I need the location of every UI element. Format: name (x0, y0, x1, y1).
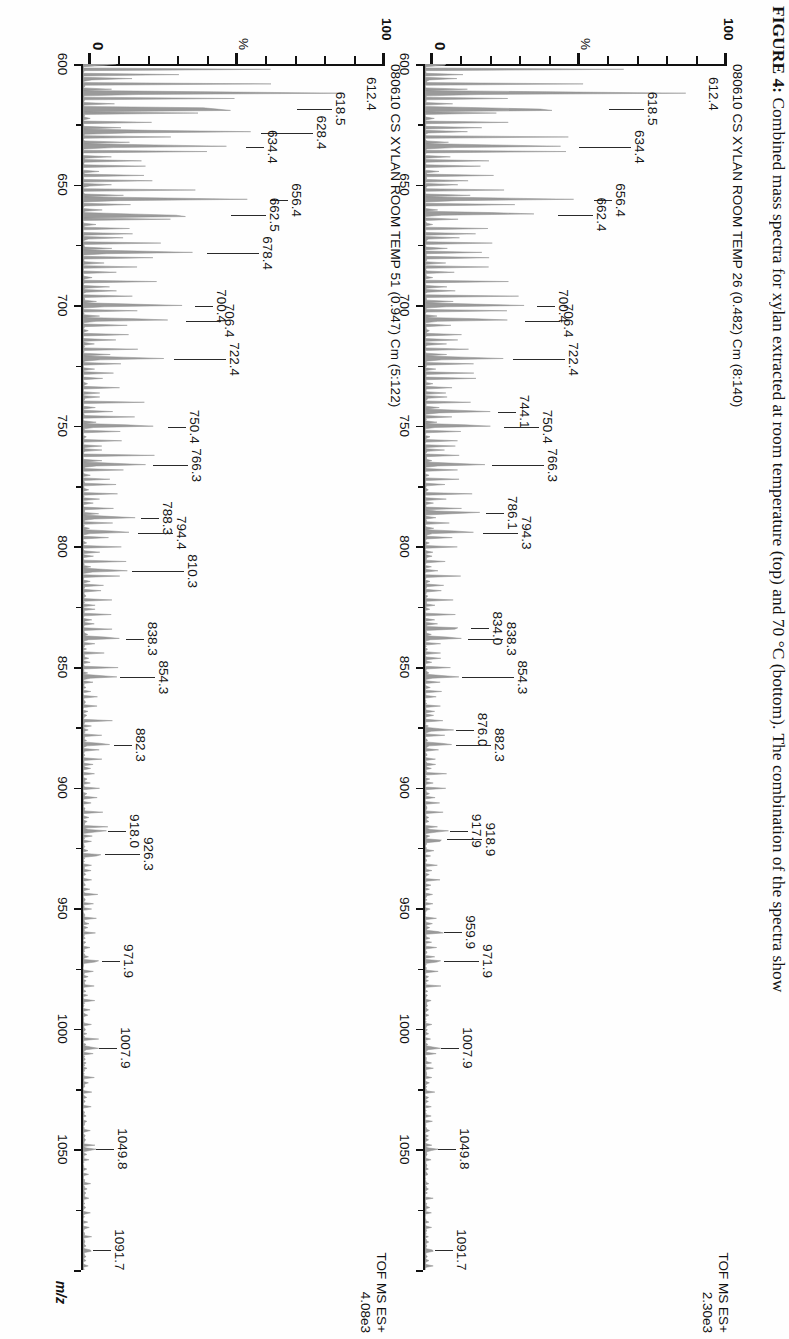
peak-label: 838.3 (145, 622, 160, 656)
peak-leader-line (174, 359, 226, 360)
spectrum-trace-top (425, 64, 723, 1270)
peak-label: 612.4 (706, 77, 721, 111)
peak-label: 618.5 (645, 92, 660, 126)
peak-leader-line (114, 745, 132, 746)
y-axis-max-label-top: 100 (721, 18, 736, 41)
peak-leader-line (444, 932, 462, 933)
peak-label: 722.4 (227, 342, 242, 376)
peak-label: 656.4 (289, 183, 304, 217)
peak-leader-line (93, 1250, 111, 1251)
x-axis-minor-tick (76, 848, 81, 850)
peak-label: 1049.8 (457, 1128, 472, 1169)
peak-leader-line (558, 215, 593, 216)
y-axis-tick (265, 56, 267, 64)
spectrum-trace-bottom (83, 64, 381, 1270)
peak-label: 706.4 (222, 304, 237, 338)
peak-label: 876.0 (475, 713, 490, 747)
peak-label: 678.4 (260, 236, 275, 270)
x-axis-minor-tick (418, 1210, 423, 1212)
y-axis-tick (637, 56, 639, 64)
peak-leader-line (483, 533, 518, 534)
x-axis-minor-tick (76, 245, 81, 247)
peak-leader-line (498, 412, 516, 413)
peak-label: 656.4 (613, 183, 628, 217)
x-axis-major-tick (74, 908, 81, 910)
x-axis-major-tick (416, 1149, 423, 1151)
peak-leader-line (132, 571, 184, 572)
x-axis-major-tick (416, 305, 423, 307)
peak-label: 917.9 (469, 814, 484, 848)
x-axis-minor-tick (76, 1210, 81, 1212)
figure-caption: FIGURE 4: Combined mass spectra for xyla… (769, 6, 789, 1331)
peak-leader-line (441, 1048, 459, 1049)
peak-leader-line (141, 518, 159, 519)
x-axis-major-tick (416, 788, 423, 790)
x-axis-major-tick (416, 1270, 423, 1272)
x-axis-major-tick (74, 305, 81, 307)
peak-label: 750.4 (187, 410, 202, 444)
y-axis-tick (236, 53, 239, 64)
peak-leader-line (231, 215, 266, 216)
peak-label: 1007.9 (460, 1027, 475, 1068)
peak-leader-line (471, 628, 489, 629)
peak-label: 618.5 (333, 92, 348, 126)
figure-caption-text: Combined mass spectra for xylan extracte… (769, 93, 789, 992)
peak-leader-line (108, 831, 126, 832)
x-axis-tick-label: 650 (55, 173, 70, 196)
x-axis-minor-tick (418, 727, 423, 729)
peak-label: 794.3 (519, 516, 534, 550)
peak-label: 788.3 (160, 501, 175, 535)
peak-label: 750.4 (540, 410, 555, 444)
peak-label: 612.4 (364, 77, 379, 111)
peak-label: 854.3 (156, 660, 171, 694)
peak-label: 1049.8 (115, 1128, 130, 1169)
x-axis-title: m/z (53, 1281, 69, 1304)
peak-label: 766.3 (189, 448, 204, 482)
peak-label: 918.9 (483, 823, 498, 857)
peak-leader-line (195, 306, 213, 307)
spectrum-title-bottom: 080610 CS XYLAN ROOM TEMP 51 (0.947) Cm … (388, 64, 403, 407)
y-axis-tick (607, 56, 609, 64)
peak-label: 662.5 (267, 198, 282, 232)
x-axis-minor-tick (418, 366, 423, 368)
peak-label: 1091.7 (112, 1229, 127, 1270)
peak-label: 634.4 (265, 130, 280, 164)
spectrum-panel-bottom: 080610 CS XYLAN ROOM TEMP 51 (0.947) Cm … (63, 0, 403, 1339)
peak-leader-line (525, 321, 560, 322)
peak-leader-line (246, 147, 264, 148)
x-axis-major-tick (74, 1149, 81, 1151)
y-axis-title-bottom: % (236, 38, 251, 50)
x-axis-major-tick (74, 546, 81, 548)
y-axis-tick (578, 53, 581, 64)
y-axis-tick (490, 56, 492, 64)
x-axis-tick-label: 1000 (55, 1014, 70, 1044)
y-axis-tick (118, 56, 120, 64)
peak-label: 744.1 (517, 395, 532, 429)
x-axis-minor-tick (418, 124, 423, 126)
peak-leader-line (186, 321, 221, 322)
x-axis-major-tick (416, 546, 423, 548)
figure-caption-label: FIGURE 4: (769, 6, 789, 93)
x-axis-major-tick (74, 1029, 81, 1031)
y-axis-tick (725, 53, 728, 64)
x-axis-minor-tick (418, 848, 423, 850)
peak-leader-line (168, 427, 186, 428)
peak-label: 854.3 (515, 660, 530, 694)
figure-page: FIGURE 4: Combined mass spectra for xyla… (0, 0, 789, 1339)
y-axis-min-label-bottom: 0 (90, 42, 107, 50)
x-axis-major-tick (74, 788, 81, 790)
peak-leader-line (450, 831, 468, 832)
x-axis-minor-tick (76, 486, 81, 488)
peak-label: 971.9 (480, 944, 495, 978)
peak-leader-line (297, 109, 332, 110)
x-axis-tick-label: 850 (55, 656, 70, 679)
y-axis-tick (460, 56, 462, 64)
peak-leader-line (438, 1149, 456, 1150)
x-axis-major-tick (74, 426, 81, 428)
peak-leader-line (513, 359, 565, 360)
peak-leader-line (99, 1048, 117, 1049)
peak-leader-line (102, 961, 120, 962)
peak-leader-line (609, 109, 644, 110)
peak-leader-line (153, 465, 188, 466)
x-axis-tick-label: 900 (55, 776, 70, 799)
